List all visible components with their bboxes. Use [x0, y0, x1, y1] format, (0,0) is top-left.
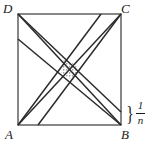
vertex-label-a: A: [5, 128, 13, 141]
fraction-denominator: n: [137, 115, 145, 126]
fraction-numerator: 1: [137, 100, 145, 111]
geometry-figure: D C A B } 1 n: [0, 0, 153, 147]
segment-offset-bottom-to-c: [38, 14, 121, 125]
segment-d-to-right-offset: [18, 14, 121, 112]
segment-left-offset-to-b: [18, 39, 121, 125]
one-over-n-annotation: } 1 n: [125, 100, 145, 126]
vertex-label-b: B: [121, 128, 129, 141]
segment-a-to-top-offset: [18, 14, 101, 125]
vertex-label-c: C: [121, 2, 130, 15]
fraction-one-over-n: 1 n: [136, 100, 145, 126]
brace-icon: }: [126, 103, 134, 124]
vertex-label-d: D: [3, 2, 12, 15]
